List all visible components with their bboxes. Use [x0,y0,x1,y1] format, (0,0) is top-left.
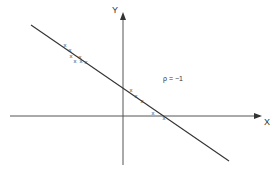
data-point: x [135,93,138,99]
data-point: x [85,59,88,65]
data-point: x [70,53,73,59]
data-point: x [163,115,166,121]
fit-line [31,25,229,161]
data-points: xxxxxxxxxxxx [64,42,166,121]
data-point: x [64,42,67,48]
y-axis-label: Y [112,5,118,15]
data-point: x [152,110,155,116]
x-axis-label: X [264,117,270,127]
data-point: x [80,58,83,64]
data-point: x [74,58,77,64]
rho-annotation: ρ = −1 [163,75,183,83]
y-axis-arrow-icon [120,12,126,20]
data-point: x [141,98,144,104]
correlation-diagram: X Y ρ = −1 xxxxxxxxxxxx [0,0,276,171]
x-axis-arrow-icon [254,113,262,119]
data-point: x [130,87,133,93]
